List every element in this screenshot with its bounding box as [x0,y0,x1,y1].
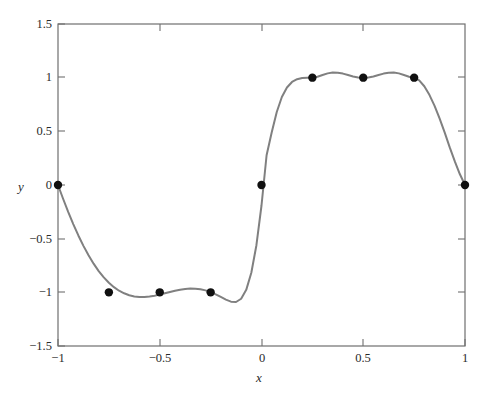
x-axis-title: x [256,371,262,384]
data-point-marker [461,181,469,189]
data-point-marker [156,288,164,296]
data-point-marker [206,288,214,296]
y-tick-label-1: 1 [12,71,52,84]
data-point-marker [105,288,113,296]
x-tick-label--1: −1 [28,352,88,365]
chart-figure: 1.5 1 0.5 0 −0.5 −1 −1.5 −1 −0.5 0 0.5 1… [0,0,489,396]
y-tick-label-0.5: 0.5 [12,125,52,138]
y-axis-title: y [18,180,24,193]
y-tick-label-1.5: 1.5 [12,18,52,31]
y-tick-label--1: −1 [12,286,52,299]
data-point-marker [359,73,367,81]
data-point-marker [54,181,62,189]
y-tick-label--0.5: −0.5 [12,233,52,246]
data-point-marker [257,181,265,189]
y-tick-label--1.5: −1.5 [12,340,52,353]
data-point-markers [54,73,469,296]
data-point-marker [308,73,316,81]
plot-canvas [0,0,489,396]
x-tick-label-0.5: 0.5 [333,352,393,365]
x-tick-label-0: 0 [232,352,292,365]
x-tick-label-1: 1 [435,352,489,365]
data-point-marker [410,73,418,81]
x-tick-label--0.5: −0.5 [130,352,190,365]
